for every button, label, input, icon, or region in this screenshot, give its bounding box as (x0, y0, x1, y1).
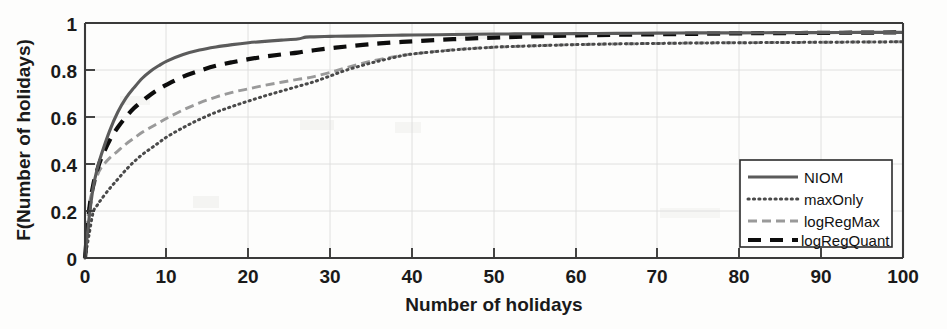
x-tick-marks (85, 248, 903, 258)
paper-texture (120, 30, 720, 218)
x-tick-label: 80 (728, 266, 749, 287)
x-tick-label: 60 (565, 266, 586, 287)
y-tick-labels: 1 0.8 0.6 0.4 0.2 0 (51, 14, 78, 270)
chart-figure: 1 0.8 0.6 0.4 0.2 0 0 10 20 30 40 50 60 … (0, 0, 947, 329)
y-tick-label: 0.8 (51, 61, 77, 82)
x-tick-label: 90 (810, 266, 831, 287)
x-tick-label: 0 (80, 266, 91, 287)
chart-legend: NIOM maxOnly logRegMax logRegQuant (740, 160, 892, 249)
y-axis-label: F(Number of holidays) (13, 39, 34, 241)
x-tick-label: 40 (401, 266, 422, 287)
x-tick-label: 30 (319, 266, 340, 287)
x-axis-label: Number of holidays (405, 294, 582, 315)
x-tick-label: 70 (646, 266, 667, 287)
y-tick-label: 1 (66, 14, 77, 35)
y-tick-label: 0 (66, 249, 77, 270)
x-tick-label: 100 (887, 266, 919, 287)
y-tick-label: 0.4 (51, 155, 78, 176)
x-tick-label: 10 (155, 266, 176, 287)
legend-label-maxonly: maxOnly (804, 191, 864, 208)
legend-label-logregmax: logRegMax (804, 213, 880, 230)
x-tick-labels: 0 10 20 30 40 50 60 70 80 90 100 (80, 266, 919, 287)
x-tick-label: 50 (483, 266, 504, 287)
cdf-line-chart: 1 0.8 0.6 0.4 0.2 0 0 10 20 30 40 50 60 … (0, 0, 947, 329)
y-tick-label: 0.6 (51, 108, 77, 129)
legend-label-niom: NIOM (804, 169, 843, 186)
y-tick-label: 0.2 (51, 202, 77, 223)
legend-label-logregquant: logRegQuant (801, 232, 890, 249)
x-tick-label: 20 (237, 266, 258, 287)
